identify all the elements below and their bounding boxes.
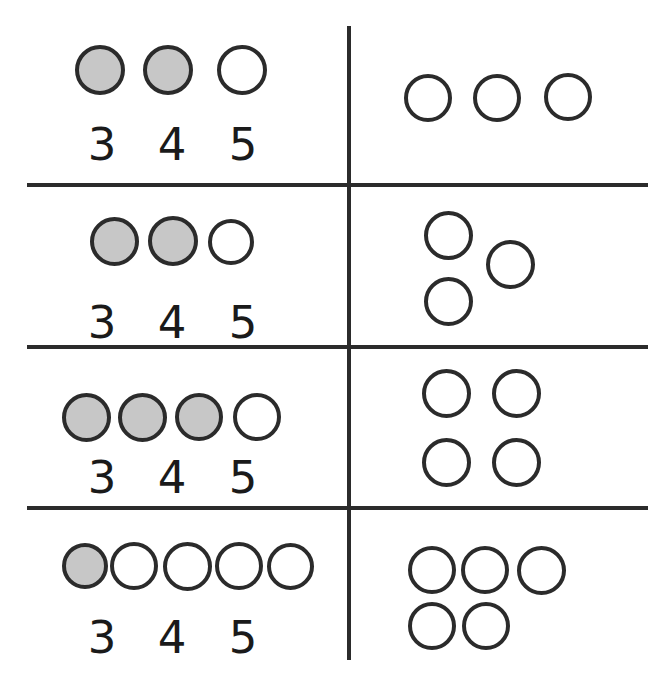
answer-circle-shaded [175,393,223,441]
answer-circle-shaded [62,393,111,442]
count-circle [424,211,473,260]
answer-circle-shaded [143,45,193,95]
row-divider-line [27,345,648,349]
answer-circle-shaded [90,217,139,266]
answer-circle-unshaded [267,543,314,590]
count-circle [422,369,471,418]
number-choice-4: 4 [158,455,187,500]
number-choice-3: 3 [88,122,117,167]
count-circle [462,602,510,650]
number-choice-3: 3 [88,455,117,500]
count-circle [404,74,452,122]
number-choice-4: 4 [158,300,187,345]
answer-circle-unshaded [110,542,158,590]
count-circle [422,438,471,487]
answer-circle-unshaded [208,219,254,265]
count-circle [492,438,541,487]
count-circle [492,369,541,418]
answer-circle-shaded [75,45,125,95]
answer-circle-shaded [148,216,198,266]
number-choice-4: 4 [158,615,187,660]
count-circle [408,546,456,594]
number-choice-4: 4 [158,122,187,167]
number-choice-5: 5 [229,300,258,345]
number-choice-5: 5 [229,615,258,660]
answer-circle-unshaded [163,542,212,591]
count-circle [517,546,566,595]
row-divider-line [27,183,648,187]
answer-circle-shaded [62,543,108,589]
answer-circle-shaded [118,393,167,442]
number-choice-5: 5 [229,122,258,167]
count-circle [424,277,473,326]
count-circle [486,240,535,289]
count-circle [461,546,509,594]
answer-circle-unshaded [215,542,263,590]
counting-worksheet: 345345345345 [0,0,672,699]
row-divider-line [27,506,648,510]
count-circle [408,602,456,650]
count-circle [544,73,592,121]
answer-circle-unshaded [217,45,267,95]
number-choice-3: 3 [88,300,117,345]
number-choice-3: 3 [88,615,117,660]
number-choice-5: 5 [229,455,258,500]
count-circle [473,74,521,122]
column-divider-line [347,26,351,660]
answer-circle-unshaded [233,393,281,441]
